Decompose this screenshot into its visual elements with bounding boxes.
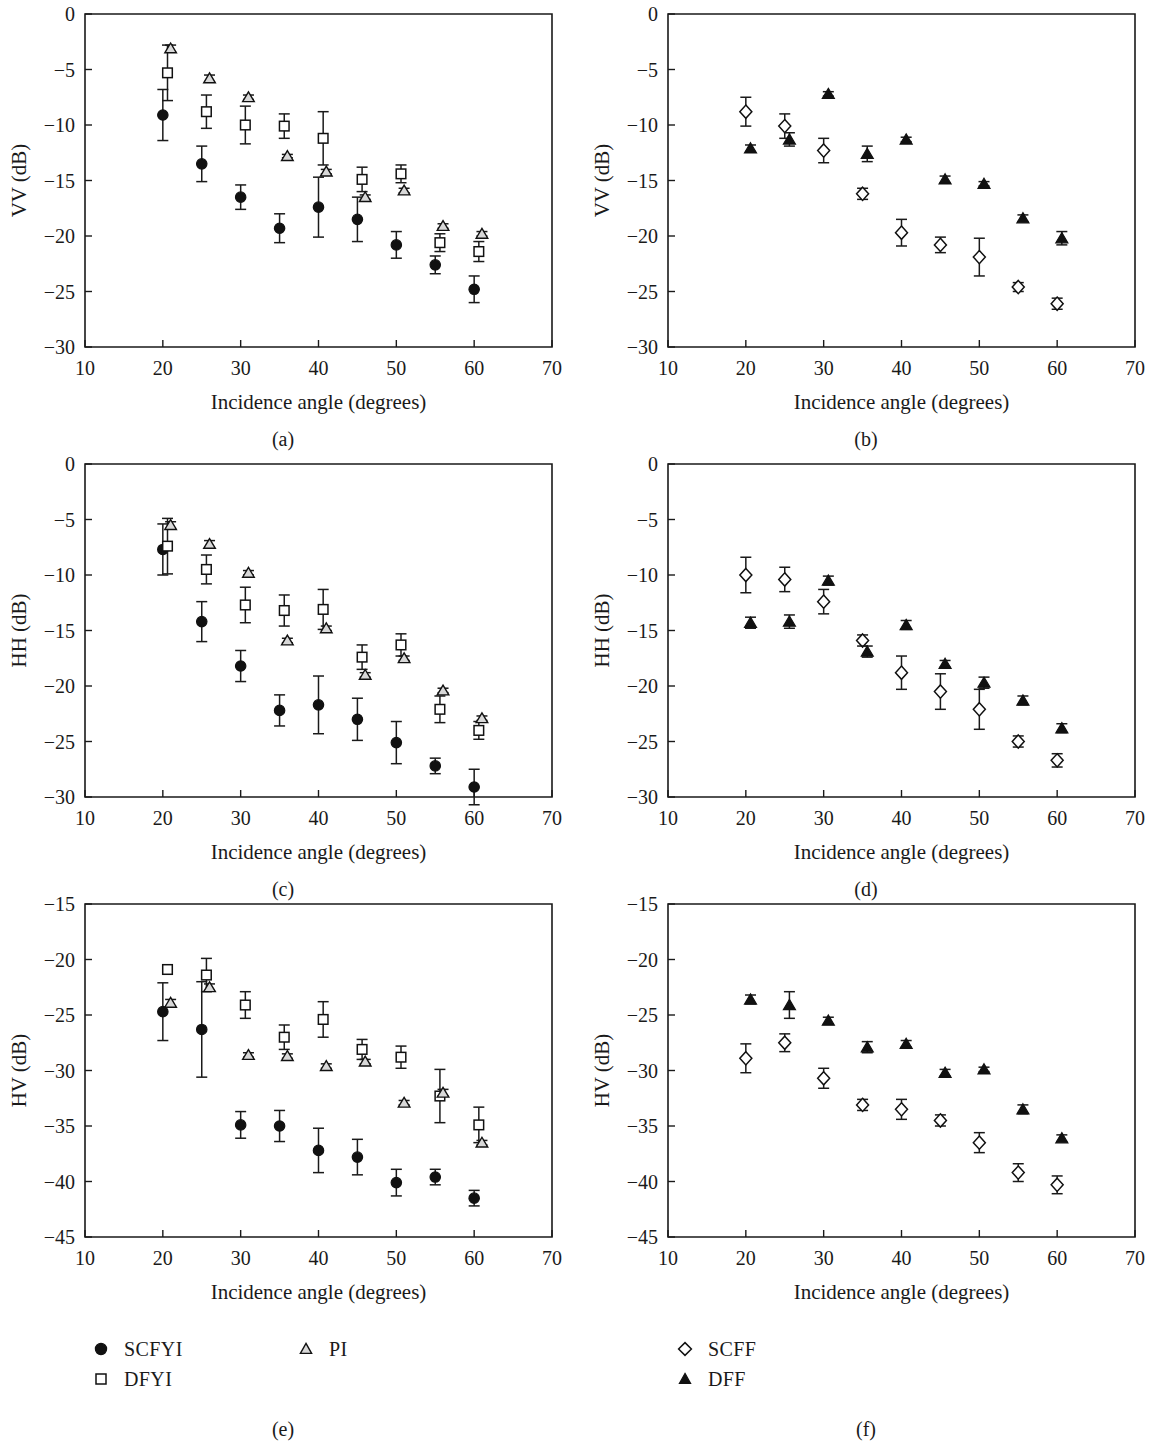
data-point-open-diamond [1012,735,1024,748]
data-point-open-triangle [243,92,255,102]
caption-b: (b) [826,428,906,451]
series-PI [165,520,488,723]
data-point-open-triangle [398,185,410,195]
legend-item-pi: PI [293,1334,348,1364]
data-point-filled-circle [313,202,323,212]
series-SCFF [740,97,1063,310]
data-point-open-square [396,640,406,650]
data-point-open-triangle [476,228,488,238]
x-tick-label: 10 [75,357,95,379]
panel-c: 0−5−10−15−20−25−3010203040506070Incidenc… [0,450,583,895]
y-tick-label: 0 [648,3,658,25]
y-tick-label: −5 [54,59,75,81]
caption-e: (e) [243,1418,323,1441]
data-point-open-diamond [896,666,908,679]
y-tick-label: −15 [627,170,658,192]
y-tick-label: −40 [44,1171,75,1193]
x-tick-label: 60 [1047,1247,1067,1269]
data-point-filled-triangle [861,148,873,158]
x-tick-label: 40 [309,807,329,829]
data-point-open-square [396,1052,406,1062]
data-point-filled-triangle [1056,233,1068,243]
x-tick-label: 10 [658,807,678,829]
data-point-open-square [357,1045,367,1055]
panel-d: 0−5−10−15−20−25−3010203040506070Incidenc… [583,450,1166,895]
y-tick-label: −35 [627,1115,658,1137]
data-point-open-diamond [779,1036,791,1049]
y-axis-title: HV (dB) [590,1034,614,1108]
x-tick-label: 50 [386,1247,406,1269]
data-point-filled-circle [391,240,401,250]
data-point-open-diamond [1012,1166,1024,1179]
x-tick-label: 40 [892,807,912,829]
y-tick-label: −5 [637,59,658,81]
data-point-open-square [474,726,484,736]
data-point-open-diamond [1051,297,1063,310]
caption-c: (c) [243,878,323,901]
data-point-filled-circle [313,1145,323,1155]
legend-label-scfyi: SCFYI [114,1338,183,1361]
data-point-open-diamond [1051,754,1063,767]
y-tick-label: −35 [44,1115,75,1137]
data-point-filled-circle [313,700,323,710]
data-point-open-square [241,600,251,610]
data-point-open-diamond [896,226,908,239]
chart-(b): 0−5−10−15−20−25−3010203040506070Incidenc… [583,0,1166,445]
x-tick-label: 70 [1125,1247,1145,1269]
data-point-open-diamond [934,1114,946,1127]
x-tick-label: 70 [1125,807,1145,829]
data-point-open-square [474,247,484,257]
chart-(a): 0−5−10−15−20−25−3010203040506070Incidenc… [0,0,583,445]
y-tick-label: 0 [65,453,75,475]
data-point-open-diamond [1051,1178,1063,1191]
x-tick-label: 30 [231,357,251,379]
data-point-open-triangle [437,221,449,231]
open-square-icon [88,1369,114,1389]
data-point-open-triangle [320,166,332,176]
data-point-open-square [396,169,406,179]
figure-root: 0−5−10−15−20−25−3010203040506070Incidenc… [0,0,1166,1455]
data-point-open-diamond [857,1098,869,1111]
filled-circle-icon [88,1339,114,1359]
data-point-open-square [202,107,212,117]
x-tick-label: 10 [658,1247,678,1269]
y-tick-label: 0 [648,453,658,475]
data-point-filled-circle [430,260,440,270]
data-point-open-square [318,134,328,144]
x-tick-label: 30 [231,1247,251,1269]
x-tick-label: 40 [309,1247,329,1269]
data-point-open-triangle [320,1061,332,1071]
x-axis-title: Incidence angle (degrees) [211,840,427,864]
data-point-filled-triangle [978,178,990,188]
series-SCFF [740,1034,1063,1194]
x-tick-label: 50 [969,1247,989,1269]
data-point-filled-circle [235,661,245,671]
data-point-open-diamond [973,1136,985,1149]
data-point-open-diamond [896,1103,908,1116]
data-point-filled-triangle [900,134,912,144]
data-point-filled-circle [197,159,207,169]
data-point-open-diamond [740,568,752,581]
open-triangle-icon [293,1339,319,1359]
chart-(d): 0−5−10−15−20−25−3010203040506070Incidenc… [583,450,1166,895]
x-tick-label: 40 [309,357,329,379]
x-tick-label: 40 [892,357,912,379]
data-point-open-square [163,68,173,78]
data-point-open-diamond [818,595,830,608]
data-point-open-square [202,565,212,575]
x-tick-label: 60 [1047,807,1067,829]
legend-label-dff: DFF [698,1368,746,1391]
data-point-filled-triangle [978,1064,990,1074]
y-tick-label: −15 [44,170,75,192]
panel-e: −15−20−25−30−35−40−4510203040506070Incid… [0,890,583,1335]
y-tick-label: −25 [627,731,658,753]
y-tick-label: −30 [627,1060,658,1082]
caption-d: (d) [826,878,906,901]
data-point-filled-circle [235,192,245,202]
legend-label-scff: SCFF [698,1338,756,1361]
data-point-open-diamond [973,703,985,716]
data-point-filled-circle [391,737,401,747]
data-point-open-square [474,1120,484,1130]
y-tick-label: −25 [627,281,658,303]
data-point-open-square [357,652,367,662]
